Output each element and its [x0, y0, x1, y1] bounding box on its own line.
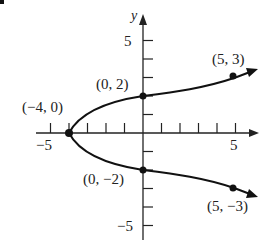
label-0-2: (0, 2): [96, 76, 129, 93]
tick-label-y-5: 5: [124, 33, 132, 49]
bullet-fragment: [0, 0, 4, 4]
y-axis-label: y: [129, 8, 138, 23]
x-axis-arrow-icon: [249, 129, 259, 137]
label-0-neg2: (0, −2): [83, 171, 124, 188]
lower-branch-arrow-icon: [246, 189, 258, 198]
tick-label-y-neg5: −5: [117, 218, 133, 234]
y-axis-arrow-icon: [139, 14, 147, 25]
point-5-3: [230, 73, 237, 80]
point-0-neg2: [140, 167, 147, 174]
label-5-3: (5, 3): [212, 51, 245, 68]
point-5-neg3: [230, 185, 237, 192]
label-5-neg3: (5, −3): [207, 198, 248, 215]
upper-branch-arrow-icon: [246, 68, 258, 77]
tick-label-x-neg5: −5: [36, 137, 52, 153]
point-vertex: [65, 129, 73, 137]
parabola-figure: y 5 −5 −5 5 (−4, 0) (0, 2) (0, −2) (5, 3…: [0, 0, 259, 240]
label-vertex: (−4, 0): [22, 99, 63, 116]
tick-label-x-5: 5: [230, 137, 238, 153]
point-0-2: [140, 93, 147, 100]
